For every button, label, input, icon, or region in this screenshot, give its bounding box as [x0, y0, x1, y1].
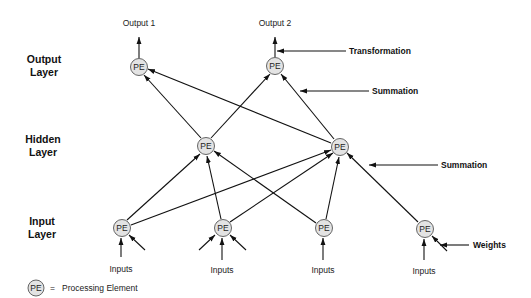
svg-text:Layer: Layer — [30, 66, 58, 78]
output-1-label: Output 1 — [123, 18, 156, 28]
svg-text:PE: PE — [116, 223, 128, 233]
pe-node-input-4: PE — [417, 221, 434, 238]
pe-node-output-1: PE — [131, 59, 148, 76]
svg-text:PE: PE — [318, 223, 330, 233]
pe-node-output-2: PE — [267, 58, 284, 75]
inputs-label-2: Inputs — [210, 265, 233, 275]
svg-text:Hidden: Hidden — [25, 133, 61, 145]
svg-text:PE: PE — [133, 62, 145, 72]
edges-input-to-hidden — [127, 150, 418, 225]
inputs-label-3: Inputs — [311, 265, 334, 275]
input-arrows — [121, 235, 447, 260]
legend-equals: = — [50, 283, 55, 293]
pe-node-hidden-2: PE — [332, 139, 349, 156]
pe-node-input-2: PE — [215, 220, 232, 237]
svg-text:Summation: Summation — [372, 86, 418, 96]
inputs-label-4: Inputs — [412, 266, 435, 276]
annotation-weights: Weights — [440, 240, 506, 250]
layer-label-hidden: Hidden Layer — [25, 133, 61, 158]
svg-text:Transformation: Transformation — [349, 46, 411, 56]
layer-label-input: Input Layer — [28, 215, 56, 240]
svg-text:Input: Input — [29, 215, 55, 227]
annotation-summation-mid: Summation — [369, 160, 487, 170]
annotation-transformation: Transformation — [277, 46, 411, 56]
layer-label-output: Output Layer — [27, 53, 62, 78]
svg-text:PE: PE — [30, 283, 42, 293]
pe-node-input-3: PE — [316, 220, 333, 237]
svg-text:Summation: Summation — [441, 160, 487, 170]
svg-text:PE: PE — [217, 223, 229, 233]
svg-text:Output: Output — [27, 53, 62, 65]
svg-text:Weights: Weights — [473, 240, 506, 250]
legend-pe-symbol: PE — [28, 280, 44, 296]
pe-node-hidden-1: PE — [198, 138, 215, 155]
annotation-summation-top: Summation — [300, 86, 418, 96]
svg-text:PE: PE — [419, 224, 431, 234]
pe-node-input-1: PE — [114, 220, 131, 237]
output-2-label: Output 2 — [259, 18, 292, 28]
svg-text:PE: PE — [334, 142, 346, 152]
svg-text:Layer: Layer — [29, 146, 57, 158]
edges-hidden-to-output — [144, 69, 334, 143]
svg-text:PE: PE — [269, 61, 281, 71]
legend: PE = Processing Element — [28, 280, 138, 296]
svg-text:Layer: Layer — [28, 228, 56, 240]
inputs-label-1: Inputs — [109, 264, 132, 274]
legend-text: Processing Element — [62, 283, 138, 293]
svg-text:PE: PE — [200, 141, 212, 151]
neural-network-diagram: Output Layer Hidden Layer Input Layer Ou… — [0, 0, 531, 298]
